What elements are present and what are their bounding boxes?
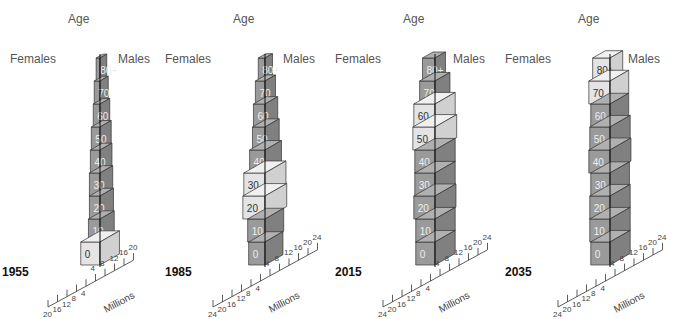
cohort-label: 0	[420, 249, 426, 260]
pyramid-panel-2015: AgeFemalesMales201580+706050403020100242…	[335, 0, 517, 319]
svg-text:8: 8	[72, 294, 77, 303]
svg-text:16: 16	[227, 300, 236, 309]
units-label: Millions	[267, 289, 302, 314]
svg-text:8: 8	[620, 254, 625, 263]
svg-text:8: 8	[246, 289, 251, 298]
svg-text:12: 12	[284, 248, 293, 257]
svg-text:20: 20	[218, 305, 227, 314]
svg-text:24: 24	[483, 233, 492, 242]
svg-text:4: 4	[601, 284, 606, 293]
svg-text:20: 20	[303, 238, 312, 247]
svg-text:20: 20	[388, 305, 397, 314]
svg-text:8: 8	[445, 254, 450, 263]
cohort-label: 80+	[100, 65, 117, 76]
svg-text:12: 12	[582, 294, 591, 303]
svg-text:16: 16	[397, 300, 406, 309]
svg-text:24: 24	[553, 310, 562, 319]
svg-text:16: 16	[639, 243, 648, 252]
svg-text:20: 20	[473, 238, 482, 247]
svg-text:24: 24	[658, 233, 667, 242]
svg-text:20: 20	[648, 238, 657, 247]
pyramid-chart-2015: 80+70605040302010024201612844812162024Mi…	[335, 0, 517, 319]
svg-text:16: 16	[119, 248, 128, 257]
svg-text:16: 16	[572, 300, 581, 309]
units-label: Millions	[437, 289, 472, 314]
svg-text:8: 8	[591, 289, 596, 298]
units-label: Millions	[612, 289, 647, 314]
svg-text:16: 16	[464, 243, 473, 252]
svg-text:24: 24	[313, 233, 322, 242]
cohort-label: 0	[253, 249, 259, 260]
svg-text:12: 12	[454, 248, 463, 257]
pyramid-chart-2035: 80+70605040302010024201612844812162024Mi…	[505, 0, 687, 319]
svg-text:12: 12	[62, 300, 71, 309]
svg-text:24: 24	[208, 310, 217, 319]
pyramid-panel-1985: AgeFemalesMales198580+706050403020100242…	[165, 0, 347, 319]
svg-text:8: 8	[275, 254, 280, 263]
svg-text:20: 20	[129, 243, 138, 252]
svg-text:12: 12	[629, 248, 638, 257]
svg-text:4: 4	[426, 284, 431, 293]
svg-text:12: 12	[237, 294, 246, 303]
cohort-label: 20	[247, 203, 259, 214]
cohort-label: 0	[595, 249, 601, 260]
svg-text:16: 16	[294, 243, 303, 252]
svg-text:4: 4	[435, 259, 440, 268]
pyramid-chart-1955: 80+7060504030201002016128448121620Millio…	[0, 0, 182, 319]
svg-text:8: 8	[100, 259, 105, 268]
pyramid-panel-1955: AgeFemalesMales195580+706050403020100201…	[0, 0, 182, 319]
svg-text:24: 24	[378, 310, 387, 319]
svg-text:4: 4	[610, 259, 615, 268]
svg-text:20: 20	[563, 305, 572, 314]
svg-text:16: 16	[53, 305, 62, 314]
pyramid-chart-1985: 80+70605040302010024201612844812162024Mi…	[165, 0, 347, 319]
svg-text:12: 12	[407, 294, 416, 303]
units-label: Millions	[102, 289, 137, 314]
svg-text:20: 20	[43, 310, 52, 319]
cohort-label: 0	[85, 249, 91, 260]
svg-text:4: 4	[256, 284, 261, 293]
svg-text:4: 4	[81, 289, 86, 298]
svg-text:4: 4	[91, 264, 96, 273]
pyramid-panel-2035: AgeFemalesMales203580+706050403020100242…	[505, 0, 687, 319]
svg-text:4: 4	[265, 259, 270, 268]
svg-text:12: 12	[110, 254, 119, 263]
svg-text:8: 8	[416, 289, 421, 298]
